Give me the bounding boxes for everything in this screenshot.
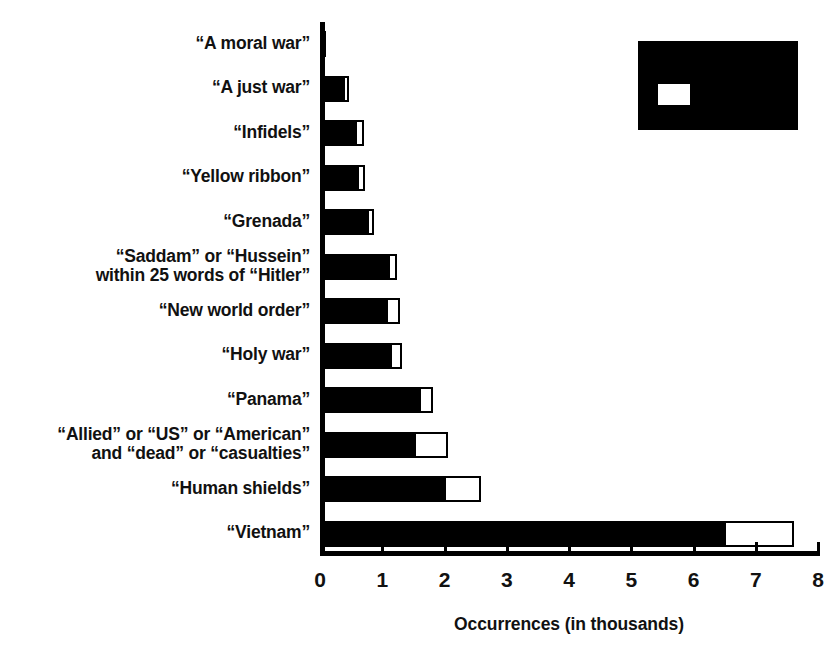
bar-segment-white xyxy=(446,476,481,502)
x-axis-tick-label: 6 xyxy=(688,568,700,592)
bar-row xyxy=(320,31,326,57)
bar-row xyxy=(320,387,433,413)
x-axis-tick xyxy=(381,542,384,556)
bar-segment-black xyxy=(320,120,357,146)
category-axis-labels: “A moral war”“A just war”“Infidels”“Yell… xyxy=(0,22,316,556)
bar-row xyxy=(320,298,400,324)
legend-swatch-white xyxy=(658,84,690,105)
bar-segment-white xyxy=(392,343,403,369)
bar-chart: “A moral war”“A just war”“Infidels”“Yell… xyxy=(0,0,839,653)
category-label: “Yellow ribbon” xyxy=(182,167,310,186)
bar-segment-black xyxy=(320,209,369,235)
bar-segment-black xyxy=(320,432,416,458)
x-axis-tick xyxy=(444,542,447,556)
bar-segment-white xyxy=(357,120,363,146)
bar-row xyxy=(320,209,374,235)
bar-row xyxy=(320,76,349,102)
bar-segment-white xyxy=(324,31,326,57)
x-axis-tick xyxy=(506,542,509,556)
x-axis-tick-label: 7 xyxy=(750,568,762,592)
x-axis-title: Occurrences (in thousands) xyxy=(320,614,818,635)
category-label: “Saddam” or “Hussein” within 25 words of… xyxy=(96,247,310,285)
bar-row xyxy=(320,343,402,369)
x-axis-tick-label: 5 xyxy=(625,568,637,592)
x-axis: 012345678 xyxy=(320,556,818,606)
x-axis-tick-label: 0 xyxy=(314,568,326,592)
category-label: “Holy war” xyxy=(222,345,310,364)
category-label: “A just war” xyxy=(212,78,310,97)
x-axis-tick xyxy=(568,542,571,556)
bar-row xyxy=(320,521,794,547)
bar-segment-black xyxy=(320,254,390,280)
bar-segment-white xyxy=(421,387,433,413)
x-axis-tick xyxy=(693,542,696,556)
category-label: “Grenada” xyxy=(223,212,310,231)
bar-row xyxy=(320,476,481,502)
x-axis-tick-label: 3 xyxy=(501,568,513,592)
x-axis-tick-label: 2 xyxy=(439,568,451,592)
bar-segment-white xyxy=(369,209,374,235)
category-label: “Infidels” xyxy=(233,123,310,142)
bar-segment-black xyxy=(320,343,392,369)
bar-row xyxy=(320,120,364,146)
bar-segment-white xyxy=(359,165,365,191)
bar-segment-black xyxy=(320,165,359,191)
category-label: “Vietnam” xyxy=(227,523,310,542)
bar-segment-white xyxy=(388,298,399,324)
bar-row xyxy=(320,165,365,191)
category-label: “Allied” or “US” or “American” and “dead… xyxy=(57,425,310,463)
bar-row xyxy=(320,254,397,280)
x-axis-tick-label: 1 xyxy=(376,568,388,592)
category-label: “Human shields” xyxy=(171,479,310,498)
bar-segment-white xyxy=(416,432,447,458)
bar-segment-white xyxy=(390,254,397,280)
x-axis-tick xyxy=(817,542,820,556)
bar-segment-white xyxy=(345,76,349,102)
x-axis-tick xyxy=(630,542,633,556)
category-label: “A moral war” xyxy=(196,34,310,53)
bar-segment-white xyxy=(726,521,794,547)
x-axis-tick xyxy=(755,542,758,556)
category-label: “Panama” xyxy=(227,390,310,409)
bar-row xyxy=(320,432,448,458)
bar-segment-black xyxy=(320,76,345,102)
x-axis-tick-label: 4 xyxy=(563,568,575,592)
x-axis-tick-label: 8 xyxy=(812,568,824,592)
bar-segment-black xyxy=(320,298,388,324)
bar-segment-black xyxy=(320,476,446,502)
bar-segment-black xyxy=(320,387,421,413)
legend-redacted-block xyxy=(638,41,798,130)
category-label: “New world order” xyxy=(159,301,310,320)
